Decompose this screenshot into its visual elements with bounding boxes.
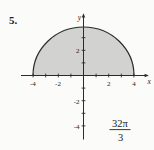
x-tick-label-pos2: 2 bbox=[107, 80, 111, 88]
x-tick-label-pos4: 4 bbox=[132, 80, 136, 88]
y-axis-arrowhead-icon bbox=[82, 13, 85, 17]
x-axis-label: x bbox=[147, 77, 152, 86]
answer-fraction: 32π 3 bbox=[110, 118, 131, 143]
semicircle-plot: 5. -4 bbox=[0, 0, 154, 150]
fraction-numerator: 32π bbox=[112, 118, 129, 129]
y-tick-label-pos2: 2 bbox=[76, 47, 80, 55]
y-tick-label-neg4: -4 bbox=[74, 123, 80, 131]
x-tick-label-neg2: -2 bbox=[55, 80, 61, 88]
y-tick-label-neg2: -2 bbox=[74, 98, 80, 106]
y-axis-label: y bbox=[77, 13, 82, 22]
x-tick-label-neg4: -4 bbox=[30, 80, 36, 88]
textbook-figure-page: 5. -4 bbox=[0, 0, 154, 150]
fraction-denominator: 3 bbox=[118, 132, 123, 143]
problem-number: 5. bbox=[9, 14, 18, 26]
